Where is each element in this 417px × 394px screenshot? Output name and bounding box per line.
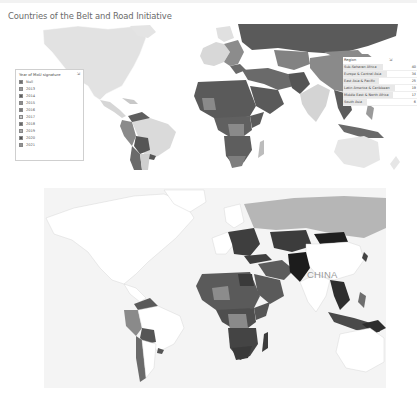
region-legend-list: Sub-Saharan Africa40 Europe & Central As…	[343, 64, 417, 106]
legend-label: 2014	[26, 94, 35, 98]
page-title: Countries of the Belt and Road Initiativ…	[8, 11, 172, 21]
swatch-icon	[19, 80, 23, 84]
legend-label: 2018	[26, 122, 35, 126]
madagascar	[258, 140, 264, 158]
region-count: 34	[412, 72, 416, 76]
region-label: South Asia	[344, 100, 362, 104]
top-border	[0, 0, 417, 3]
swatch-icon	[19, 129, 23, 133]
drc	[228, 124, 244, 136]
legend-label: 2021	[26, 143, 35, 147]
central-america	[100, 100, 126, 118]
legend-label: Null	[26, 80, 33, 84]
region-count: 17	[412, 93, 416, 97]
legend-label: 2013	[26, 87, 35, 91]
swatch-icon	[19, 136, 23, 140]
legend-item[interactable]: 2020	[19, 135, 35, 142]
region-label: Europe & Central Asia	[344, 72, 381, 76]
indonesia	[338, 124, 384, 138]
region-label: East Asia & Pacific	[344, 79, 375, 83]
legend-label: 2019	[26, 129, 35, 133]
legend-label: 2015	[26, 101, 35, 105]
drc	[228, 314, 248, 330]
turkey-iran	[242, 68, 294, 90]
west-africa-light	[212, 286, 230, 300]
legend-label: 2017	[26, 115, 35, 119]
region-count: 6	[414, 100, 416, 104]
legend-item[interactable]: 2018	[19, 121, 35, 128]
legend-item[interactable]: 2013	[19, 85, 35, 92]
swatch-icon	[19, 87, 23, 91]
china-label: CHINA	[307, 269, 338, 280]
legend-item[interactable]: 2019	[19, 128, 35, 135]
year-legend-list: Null 2013 2014 2015 2016 2017 2018 2019 …	[19, 78, 35, 149]
region-count: 40	[412, 65, 416, 69]
swatch-icon	[19, 94, 23, 98]
region-label: Latin America & Caribbean	[344, 86, 390, 90]
swatch-icon	[19, 143, 23, 147]
legend-item[interactable]: 2017	[19, 113, 35, 120]
south-africa	[228, 156, 246, 168]
legend-item[interactable]: 2016	[19, 106, 35, 113]
kazakhstan	[274, 50, 310, 70]
new-zealand	[390, 156, 400, 170]
region-row[interactable]: East Asia & Pacific25	[343, 78, 417, 85]
region-count: 19	[412, 86, 416, 90]
region-row[interactable]: Middle East & North Africa17	[343, 92, 417, 99]
region-legend[interactable]: Region ⇲ Sub-Saharan Africa40 Europe & C…	[343, 57, 417, 106]
region-row[interactable]: Sub-Saharan Africa40	[343, 64, 417, 71]
australia	[334, 136, 380, 168]
philippines	[366, 104, 374, 120]
region-row[interactable]: Europe & Central Asia34	[343, 71, 417, 78]
year-legend[interactable]: Year of MoU signature ⇲ Null 2013 2014 2…	[15, 69, 84, 161]
legend-item[interactable]: 2015	[19, 99, 35, 106]
india	[300, 84, 330, 122]
legend-item[interactable]: 2021	[19, 142, 35, 149]
horn-of-africa	[250, 112, 264, 128]
russia	[238, 24, 398, 54]
region-count: 25	[412, 79, 416, 83]
swatch-icon	[19, 101, 23, 105]
bottom-world-map[interactable]	[44, 188, 386, 388]
legend-label: 2020	[26, 136, 35, 140]
caribbean	[122, 98, 138, 104]
region-row[interactable]: Latin America & Caribbean19	[343, 85, 417, 92]
egypt	[238, 274, 254, 286]
year-legend-title: Year of MoU signature	[19, 72, 61, 77]
arabia	[250, 86, 284, 114]
west-africa-light	[202, 98, 216, 110]
legend-item[interactable]: Null	[19, 78, 35, 85]
legend-item[interactable]: 2014	[19, 92, 35, 99]
scandinavia	[216, 26, 234, 42]
region-label: Middle East & North Africa	[344, 93, 389, 97]
region-legend-title: Region	[344, 58, 356, 62]
swatch-icon	[19, 115, 23, 119]
region-row[interactable]: South Asia6	[343, 99, 417, 106]
swatch-icon	[19, 108, 23, 112]
legend-label: 2016	[26, 108, 35, 112]
legend-pin-icon[interactable]: ⇲	[389, 57, 392, 62]
region-label: Sub-Saharan Africa	[344, 65, 377, 69]
swatch-icon	[19, 122, 23, 126]
legend-pin-icon[interactable]: ⇲	[77, 71, 80, 76]
